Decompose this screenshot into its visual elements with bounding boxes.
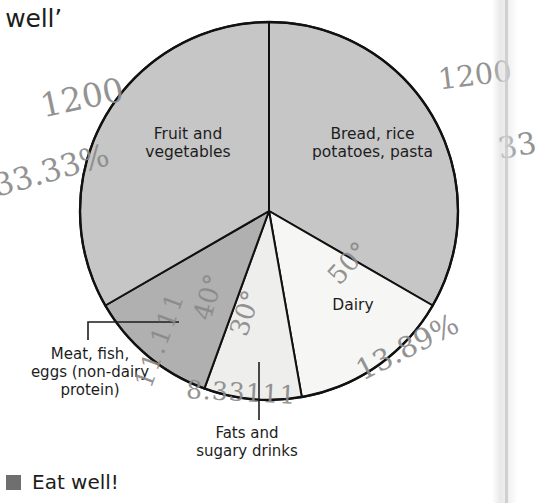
slice-label-line: potatoes, pasta (312, 143, 433, 161)
pencil-annotation-33-right: 33 (495, 125, 539, 166)
slice-label-line: Bread, rice (330, 125, 414, 143)
slice-label-dairy: Dairy (317, 296, 389, 314)
slice-label-fruit-and-vegetables: Fruit and vegetables (113, 125, 263, 162)
scanned-page: t well’ Fruit and vegetables Bread, rice… (0, 0, 539, 503)
chart-legend: Eat well! (6, 470, 119, 494)
pencil-annotation-8-33-percent: 8.33111 (185, 375, 297, 410)
slice-label-line: Meat, fish, (51, 345, 129, 363)
slice-label-line: protein) (60, 381, 119, 399)
legend-swatch-icon (6, 475, 21, 490)
slice-label-fats-and-sugary-drinks: Fats and sugary drinks (172, 424, 322, 460)
slice-label-line: Fruit and (154, 125, 222, 143)
legend-label: Eat well! (32, 470, 119, 494)
slice-label-bread-rice-potatoes-pasta: Bread, rice potatoes, pasta (290, 125, 455, 162)
slice-label-line: vegetables (145, 143, 230, 161)
slice-label-line: sugary drinks (196, 442, 298, 460)
slice-label-line: Fats and (215, 424, 278, 442)
